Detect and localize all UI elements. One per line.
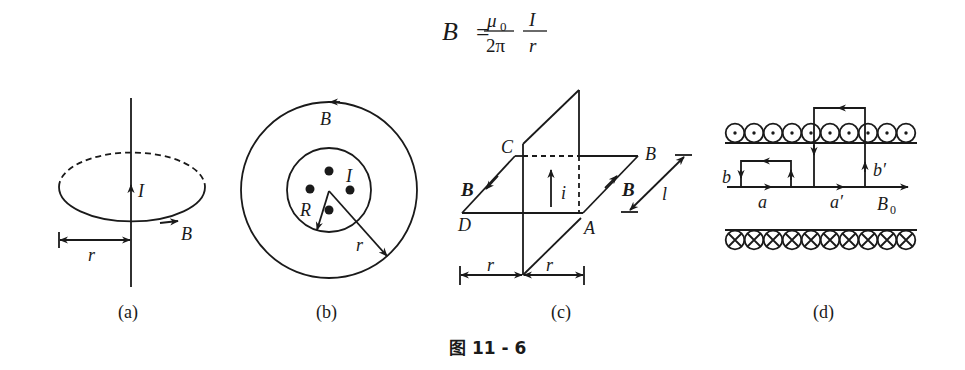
coil-in-icon <box>897 231 916 250</box>
bottom-coil-row <box>725 230 917 249</box>
length-dimension <box>630 157 684 210</box>
current-dot-icon <box>306 185 315 194</box>
coil-in-icon <box>840 231 859 250</box>
formula-mu: μ <box>486 10 497 31</box>
label-radius-r: r <box>88 245 96 265</box>
formula-lhs: B <box>442 17 458 46</box>
field-arrow-right-icon <box>605 176 617 188</box>
panel-a <box>59 98 205 287</box>
coil-in-icon <box>745 231 764 250</box>
field-arrow-left-icon <box>486 176 498 189</box>
caption-c: (c) <box>551 302 571 323</box>
caption-b: (b) <box>316 302 337 323</box>
label-field-B: B <box>181 224 192 244</box>
coil-in-icon <box>878 231 897 250</box>
label-radius-r-right: r <box>546 255 554 275</box>
label-length-l: l <box>662 184 667 204</box>
coil-in-icon <box>802 231 821 250</box>
field-arrow-icon <box>160 221 178 223</box>
figure-caption: 图 11 - 6 <box>449 338 526 358</box>
small-loop <box>741 161 791 187</box>
formula-r: r <box>529 35 537 56</box>
label-field-B0: B <box>877 194 888 214</box>
label-current-I: I <box>137 181 145 201</box>
label-corner-C: C <box>501 137 514 157</box>
label-a-prime: a′ <box>830 192 844 212</box>
field-loop-back <box>59 153 205 187</box>
caption-d: (d) <box>813 302 834 323</box>
current-dot-icon <box>325 206 334 215</box>
label-field-sub-0: 0 <box>890 203 896 217</box>
field-loop-front <box>59 187 205 221</box>
label-corner-D: D <box>457 215 471 235</box>
label-inner-radius-R: R <box>299 200 311 220</box>
label-corner-B: B <box>645 144 656 164</box>
label-b: b <box>722 167 731 187</box>
figure-canvas: B = μ 0 2π I r I B r (a) <box>0 0 965 370</box>
label-field-B-left: B <box>460 179 474 200</box>
label-a: a <box>758 192 767 212</box>
caption-a: (a) <box>118 302 138 323</box>
label-b-prime: b′ <box>873 160 887 180</box>
large-loop <box>814 108 865 187</box>
coil-in-icon <box>783 231 802 250</box>
label-current-I: I <box>345 166 353 186</box>
current-dot-icon <box>325 167 334 176</box>
panel-c <box>460 90 692 285</box>
label-corner-A: A <box>583 218 596 238</box>
label-radius-r: r <box>356 235 364 255</box>
formula-I: I <box>528 9 537 30</box>
formula-2pi: 2π <box>486 35 506 56</box>
formula-mu-sub: 0 <box>500 19 507 34</box>
label-field-B: B <box>877 194 888 214</box>
coil-in-icon <box>859 231 878 250</box>
current-dot-icon <box>346 186 355 195</box>
panel-d <box>725 108 917 249</box>
coil-in-icon <box>726 231 745 250</box>
label-radius-r-left: r <box>487 255 495 275</box>
coil-in-icon <box>821 231 840 250</box>
formula: B = μ 0 2π I r <box>442 9 547 56</box>
label-current-i: i <box>561 183 566 203</box>
label-field-B: B <box>320 109 331 129</box>
vertical-plane-top-edge <box>523 90 579 144</box>
label-field-B-right: B <box>621 179 635 200</box>
coil-in-icon <box>764 231 783 250</box>
